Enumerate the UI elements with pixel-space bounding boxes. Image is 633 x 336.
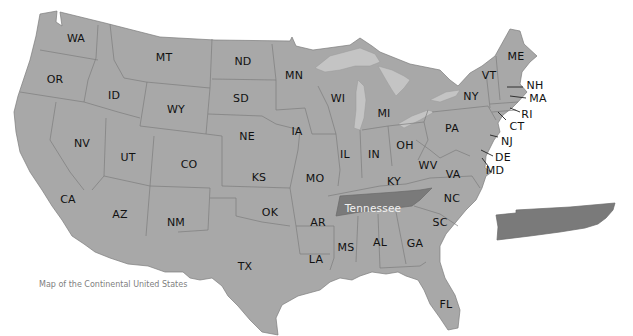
state-label-fl: FL [440, 298, 453, 311]
state-label-ct: CT [510, 120, 525, 133]
state-label-md: MD [486, 164, 504, 177]
state-label-wy: WY [167, 103, 185, 116]
map-caption: Map of the Continental United States [39, 280, 187, 289]
state-label-mn: MN [285, 69, 303, 82]
state-label-al: AL [373, 236, 387, 249]
state-label-wv: WV [419, 159, 438, 172]
state-label-or: OR [47, 73, 64, 86]
state-label-ks: KS [252, 171, 267, 184]
state-label-ia: IA [291, 125, 302, 138]
state-label-nj: NJ [501, 135, 513, 148]
state-label-id: ID [108, 89, 120, 102]
state-label-ut: UT [120, 151, 135, 164]
state-label-sd: SD [233, 92, 249, 105]
state-label-nh: NH [527, 79, 544, 92]
state-label-la: LA [309, 253, 323, 266]
state-label-ne: NE [239, 130, 255, 143]
state-label-de: DE [495, 151, 511, 164]
state-label-mt: MT [156, 51, 173, 64]
tennessee-enlarged-shape[interactable] [496, 203, 615, 240]
state-label-ky: KY [387, 175, 401, 188]
tennessee-label[interactable]: Tennessee [345, 202, 402, 214]
state-label-nd: ND [234, 55, 251, 68]
state-label-tx: TX [238, 260, 253, 273]
state-label-nm: NM [167, 216, 185, 229]
state-label-ok: OK [262, 206, 278, 219]
state-label-il: IL [340, 148, 350, 161]
state-label-pa: PA [445, 122, 459, 135]
state-label-nv: NV [74, 137, 90, 150]
state-label-ca: CA [60, 193, 76, 206]
state-label-az: AZ [112, 208, 127, 221]
state-label-mo: MO [306, 172, 325, 185]
state-label-wa: WA [67, 32, 85, 45]
state-label-in: IN [368, 148, 380, 161]
state-label-mi: MI [377, 107, 390, 120]
state-label-vt: VT [482, 69, 497, 82]
state-label-va: VA [446, 168, 461, 181]
state-label-me: ME [508, 50, 525, 63]
state-label-ar: AR [310, 216, 326, 229]
state-label-co: CO [181, 158, 198, 171]
state-label-ms: MS [338, 241, 355, 254]
state-label-oh: OH [396, 139, 413, 152]
state-label-wi: WI [331, 92, 346, 105]
state-label-ny: NY [463, 90, 478, 103]
state-label-nc: NC [444, 192, 460, 205]
state-label-ga: GA [407, 237, 423, 250]
state-label-sc: SC [432, 216, 447, 229]
state-label-ma: MA [529, 92, 546, 105]
